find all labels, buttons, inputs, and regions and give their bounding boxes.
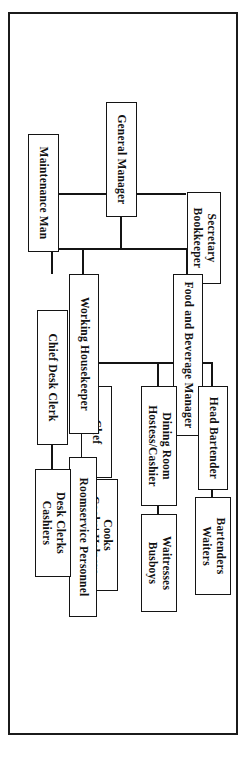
edge-gm-spine-stub <box>120 217 122 249</box>
node-waitresses-line-2: Busboys <box>145 542 159 584</box>
node-bartenders-waiters[interactable]: Bartenders Waiters <box>195 497 231 595</box>
chart-rotation-wrapper: Secretary Bookkeeper General Manager Mai… <box>6 14 236 737</box>
node-desk-clerks-line-1: Desk Clerks <box>53 492 67 554</box>
node-dining-room-hostess-cashier[interactable]: Dining Room Hostess/Cashier <box>141 386 177 506</box>
node-bartenders-line-1: Bartenders <box>213 518 227 575</box>
node-fb-manager-label: Food and Beverage Manager <box>181 281 195 428</box>
node-head-bartender-label: Head Bartender <box>206 397 220 479</box>
node-chief-desk-clerk-label: Chief Desk Clerk <box>46 333 60 421</box>
node-secretary-line-2: Bookkeeper <box>190 208 204 269</box>
edge-fb-diningroom <box>157 362 159 386</box>
node-cooks-line-1: Cooks <box>101 519 115 551</box>
edge-gm-spine <box>52 248 188 250</box>
edge-fb-headbartender <box>211 362 213 386</box>
node-maintenance-man[interactable]: Maintenance Man <box>28 134 59 252</box>
node-roomservice-personnel[interactable]: Roomservice Personnel <box>69 457 97 617</box>
node-dining-room-line-1: Dining Room <box>159 412 173 480</box>
node-chief-desk-clerk[interactable]: Chief Desk Clerk <box>37 310 68 445</box>
node-head-bartender[interactable]: Head Bartender <box>198 386 228 490</box>
node-secretary-bookkeeper[interactable]: Secretary Bookkeeper <box>187 192 221 284</box>
node-general-manager[interactable]: General Manager <box>106 102 137 217</box>
edge-gm-secretary <box>136 193 186 195</box>
org-chart-canvas: Secretary Bookkeeper General Manager Mai… <box>6 14 236 737</box>
chart-frame: Secretary Bookkeeper General Manager Mai… <box>8 12 238 735</box>
node-waitresses-line-1: Waitresses <box>159 536 173 590</box>
node-general-manager-label: General Manager <box>115 114 129 204</box>
edge-gm-maintenance <box>58 193 106 195</box>
node-waitresses-busboys[interactable]: Waitresses Busboys <box>141 514 177 612</box>
node-maintenance-man-label: Maintenance Man <box>37 147 51 240</box>
node-desk-clerks-line-2: Cashiers <box>39 501 53 545</box>
edge-gm-housekeeper <box>82 248 84 274</box>
node-desk-clerks-cashiers[interactable]: Desk Clerks Cashiers <box>35 469 71 577</box>
node-bartenders-line-2: Waiters <box>199 526 213 566</box>
node-working-housekeeper[interactable]: Working Housekeeper <box>69 274 99 434</box>
node-working-housekeeper-label: Working Housekeeper <box>77 297 91 411</box>
node-secretary-line-1: Secretary <box>204 214 218 263</box>
edge-deskclerk-deskclerks <box>51 445 53 469</box>
node-dining-room-line-2: Hostess/Cashier <box>145 405 159 487</box>
node-roomservice-personnel-label: Roomservice Personnel <box>76 478 90 597</box>
